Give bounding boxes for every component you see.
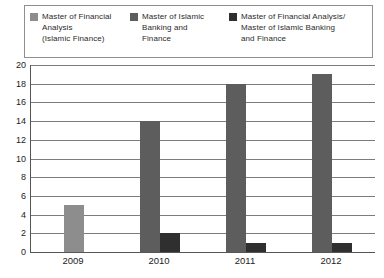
x-axis-tick-label: 2010 [127,255,191,266]
legend-item-mfa-mibf: Master of Financial Analysis/ Master of … [229,12,369,44]
y-axis-tick-label: 2 [0,228,26,238]
bar [312,74,332,252]
bar [64,205,84,252]
y-axis-tick-label: 6 [0,191,26,201]
y-axis-tick-label: 18 [0,79,26,89]
y-axis-tick-label: 4 [0,210,26,220]
gridline [31,65,375,66]
y-axis-tick-label: 0 [0,247,26,257]
bar [246,243,266,252]
legend-label: Master of Financial Analysis (Islamic Fi… [42,12,111,44]
plot-area [30,65,375,253]
bar [332,243,352,252]
bar [160,233,180,252]
y-axis-tick-label: 14 [0,116,26,126]
legend-swatch-medium-gray-icon [130,13,138,21]
x-axis-tick-label: 2012 [299,255,363,266]
bar [226,84,246,252]
chart-legend: Master of Financial Analysis (Islamic Fi… [24,5,373,58]
bar [140,121,160,252]
y-axis-tick-label: 8 [0,172,26,182]
y-axis-tick-label: 10 [0,154,26,164]
legend-label: Master of Islamic Banking and Finance [142,12,204,44]
legend-swatch-light-gray-icon [30,13,38,21]
x-axis-tick-label: 2009 [41,255,105,266]
legend-item-mibf: Master of Islamic Banking and Finance [130,12,229,44]
x-axis-tick-label: 2011 [213,255,277,266]
y-axis-tick-label: 16 [0,97,26,107]
bar-chart-figure: Master of Financial Analysis (Islamic Fi… [0,0,384,278]
legend-swatch-dark-gray-icon [229,13,237,21]
y-axis-tick-label: 20 [0,60,26,70]
y-axis-tick-label: 12 [0,135,26,145]
legend-item-mfa-islamic-finance: Master of Financial Analysis (Islamic Fi… [30,12,130,44]
legend-label: Master of Financial Analysis/ Master of … [241,12,345,44]
